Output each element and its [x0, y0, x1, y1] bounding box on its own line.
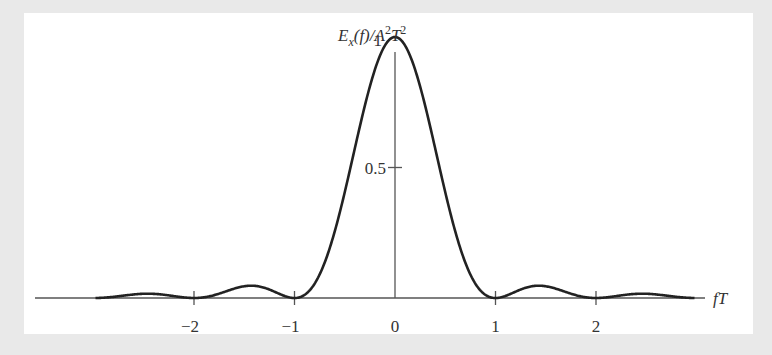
x-tick-labels: −2−1012 [181, 317, 600, 336]
sinc-squared-chart: −2−1012 0.51 Ex(f)/A2T2 fT [0, 0, 772, 355]
y-tick-labels: 0.51 [365, 31, 386, 178]
x-tick-label: −1 [281, 317, 299, 336]
y-axis-label: Ex(f)/A2T2 [337, 23, 406, 49]
x-tick-label: −2 [181, 317, 199, 336]
x-tick-label: 0 [391, 317, 400, 336]
x-tick-label: 1 [491, 317, 500, 336]
x-axis-label: fT [713, 289, 729, 308]
x-tick-label: 2 [592, 317, 601, 336]
y-tick-label: 0.5 [365, 159, 386, 178]
